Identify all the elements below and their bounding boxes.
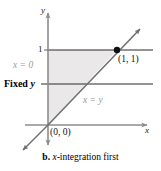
figure-container: y x 1 x = 0 Fixed y x = y (1, 1) (0, 0) … — [0, 0, 161, 171]
label-fixed-y-prefix: Fixed — [4, 78, 30, 89]
x-axis-label: x — [145, 126, 149, 135]
tick-label-one: 1 — [38, 45, 43, 54]
label-point-one-one: (1, 1) — [118, 55, 139, 65]
point-one-one — [114, 47, 120, 53]
figure-caption: b. x-integration first — [0, 152, 161, 162]
caption-marker: b. — [42, 152, 50, 162]
label-point-origin: (0, 0) — [50, 128, 71, 138]
label-fixed-y: Fixed y — [4, 79, 35, 89]
label-fixed-y-variable: y — [30, 78, 34, 89]
line-x-equals-y-lower — [23, 125, 48, 150]
caption-text: -integration first — [57, 152, 119, 162]
label-x-equals-zero: x = 0 — [13, 61, 33, 71]
label-x-equals-y: x = y — [83, 96, 103, 106]
y-axis-label: y — [41, 6, 45, 15]
